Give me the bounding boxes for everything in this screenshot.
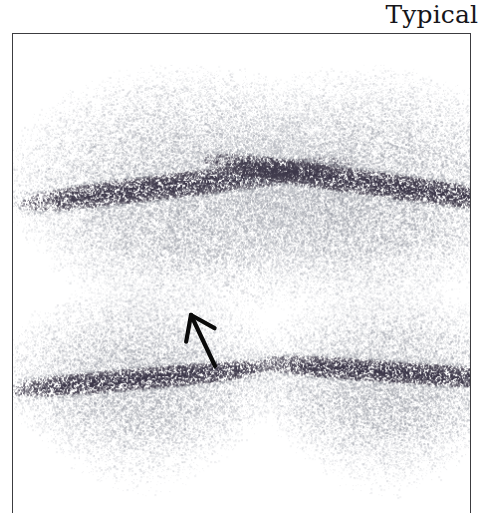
figure-title: Typical (0, 0, 478, 30)
scintigraphy-image-panel (12, 33, 471, 513)
scintigraphy-scan-canvas (13, 34, 470, 513)
